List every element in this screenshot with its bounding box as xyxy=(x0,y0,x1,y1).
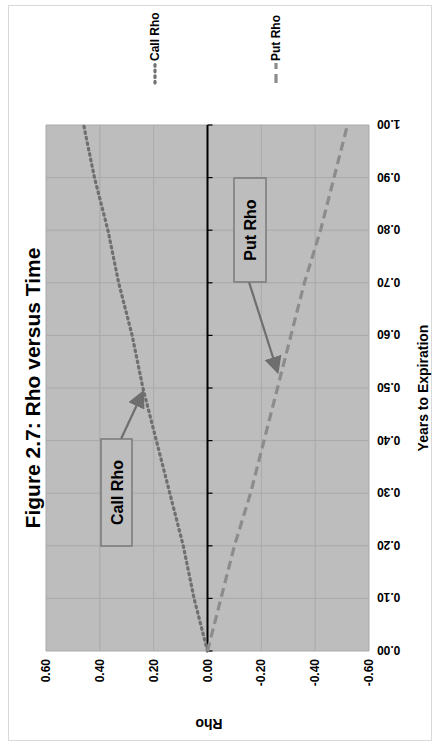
y-tick-label: 0.60 xyxy=(39,659,53,683)
x-tick-label: 0.80 xyxy=(377,222,401,236)
y-tick-label: 0.20 xyxy=(147,659,161,683)
plot-area xyxy=(46,125,369,651)
y-tick-label: 0.40 xyxy=(93,659,107,683)
x-tick-label: 0.70 xyxy=(377,275,401,289)
legend-label: Put Rho xyxy=(269,15,283,61)
annotation-label: Call Rho xyxy=(109,460,126,525)
x-tick-label: 0.90 xyxy=(377,170,401,184)
y-tick-label: -0.60 xyxy=(362,659,376,687)
legend: Call RhoPut Rho xyxy=(148,12,283,83)
x-axis-label: Years to Expiration xyxy=(415,325,431,452)
legend-label: Call Rho xyxy=(148,12,162,61)
annotation-label: Put Rho xyxy=(242,199,259,261)
rho-chart: Figure 2.7: Rho versus Time Call RhoPut … xyxy=(0,0,439,747)
x-tick-label: 0.50 xyxy=(377,380,401,394)
chart-title: Figure 2.7: Rho versus Time xyxy=(21,248,44,529)
x-tick-label: 0.40 xyxy=(377,433,401,447)
x-tick-label: 0.20 xyxy=(377,538,401,552)
x-tick-label: 1.00 xyxy=(377,117,401,131)
x-tick-label: 0.10 xyxy=(377,590,401,604)
y-tick-label: 0.00 xyxy=(201,659,215,683)
x-tick-label: 0.60 xyxy=(377,327,401,341)
rotated-figure: Figure 2.7: Rho versus Time Call RhoPut … xyxy=(0,0,439,747)
x-tick-label: 0.30 xyxy=(377,485,401,499)
y-axis-label: Rho xyxy=(195,716,222,732)
x-tick-label: 0.00 xyxy=(377,643,401,657)
y-tick-label: -0.20 xyxy=(254,659,268,687)
y-tick-label: -0.40 xyxy=(308,659,322,687)
